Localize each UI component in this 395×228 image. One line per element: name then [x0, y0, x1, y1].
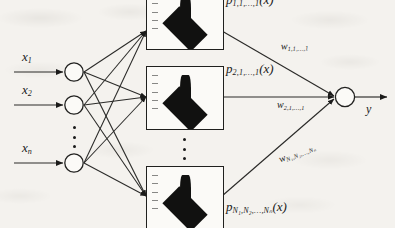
- input-label-x2: x2: [22, 83, 32, 98]
- surface-plot-1: [147, 0, 223, 49]
- plot-axis-ticks-2: [152, 75, 159, 109]
- rule-box-1: [146, 0, 224, 50]
- input-layer-ellipsis: [72, 126, 76, 148]
- input-label-xn: xn: [22, 141, 32, 156]
- rule-to-output-connections: [222, 31, 334, 196]
- rule-layer-ellipsis: [182, 138, 186, 160]
- output-neuron: [335, 87, 354, 106]
- neural-network-figure: x1 x2 xn p1,1,…,1(x) p2,1,…,1(x) pN₁,N₂,…: [0, 0, 395, 228]
- rule-output-label-2: p2,1,…,1(x): [226, 62, 274, 77]
- rule-output-label-n: pN₁,N₂,…,Nₙ(x): [226, 200, 287, 215]
- input-neurons: [65, 63, 83, 172]
- surface-plot-n: [147, 167, 223, 228]
- weight-label-2: w2,1,…,1: [277, 100, 305, 111]
- input-to-rule-connections: [84, 31, 146, 196]
- rule-output-label-1: p1,1,…,1(x): [226, 0, 274, 8]
- rule-box-2: [146, 66, 224, 130]
- rule-box-n: [146, 166, 224, 228]
- weight-label-1: w1,1,…,1: [281, 41, 309, 53]
- plot-axis-ticks-1: [152, 0, 159, 29]
- output-label-y: y: [366, 103, 371, 115]
- surface-plot-2: [147, 67, 223, 129]
- plot-axis-ticks-n: [152, 175, 159, 209]
- input-label-x1: x1: [22, 50, 32, 65]
